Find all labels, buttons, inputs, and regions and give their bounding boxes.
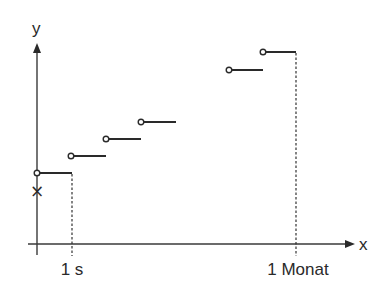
- x-axis-label: x: [359, 235, 368, 254]
- y-axis-arrowhead-icon: [33, 43, 41, 53]
- open-circle-icon: [34, 170, 40, 176]
- tick-label-1s: 1 s: [61, 260, 84, 279]
- step-4: [138, 119, 176, 125]
- cross-marker-icon: ×: [30, 181, 44, 201]
- x-axis-arrowhead-icon: [345, 240, 355, 248]
- step-5: [226, 67, 263, 73]
- step-3: [103, 136, 141, 142]
- open-circle-icon: [260, 49, 266, 55]
- step-6: [260, 49, 296, 55]
- step-2: [68, 153, 106, 159]
- step-diagram: y x × 1 s 1 Monat: [0, 0, 387, 296]
- open-circle-icon: [138, 119, 144, 125]
- open-circle-icon: [226, 67, 232, 73]
- step-1: [34, 170, 72, 176]
- tick-label-1-monat: 1 Monat: [267, 260, 329, 279]
- open-circle-icon: [68, 153, 74, 159]
- y-axis-label: y: [32, 19, 41, 38]
- open-circle-icon: [103, 136, 109, 142]
